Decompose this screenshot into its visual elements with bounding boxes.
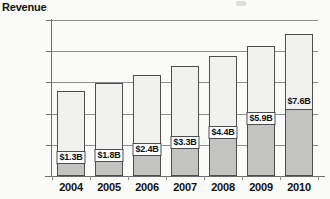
bar-group-2008[interactable]: $4.4B [209, 20, 237, 176]
x-tick-mark-2010 [280, 176, 281, 180]
revenue-bar-chart: Revenue $10B86420 $1.3B$1.8B$2.4B$3.3B$4… [0, 0, 330, 199]
bar-group-2004[interactable]: $1.3B [57, 20, 85, 176]
x-tick-label-2008: 2008 [211, 181, 235, 193]
x-tick-mark-2007 [166, 176, 167, 180]
x-tick-mark-2009 [242, 176, 243, 180]
bar-group-2006[interactable]: $2.4B [133, 20, 161, 176]
bar-lower-segment-2006[interactable] [134, 155, 160, 175]
x-tick-mark-2005 [90, 176, 91, 180]
x-tick-mark-2004 [52, 176, 53, 180]
bar-lower-segment-2008[interactable] [210, 138, 236, 175]
value-label-2005: $1.8B [94, 149, 123, 162]
bar-lower-segment-2004[interactable] [58, 163, 84, 175]
bar-lower-segment-2005[interactable] [96, 161, 122, 175]
x-tick-label-2005: 2005 [97, 181, 121, 193]
x-tick-label-2009: 2009 [249, 181, 273, 193]
value-label-2006: $2.4B [132, 143, 161, 156]
x-tick-mark-end [318, 176, 319, 180]
plot-area: $1.3B$1.8B$2.4B$3.3B$4.4B$5.9B$7.6B [52, 20, 318, 176]
bar-group-2009[interactable]: $5.9B [247, 20, 275, 176]
bar-group-2007[interactable]: $3.3B [171, 20, 199, 176]
bar-group-2005[interactable]: $1.8B [95, 20, 123, 176]
bar-total-2006[interactable] [133, 75, 161, 176]
bar-total-2007[interactable] [171, 66, 199, 176]
bar-total-2005[interactable] [95, 83, 123, 176]
bar-lower-segment-2009[interactable] [248, 124, 274, 175]
value-label-2009: $5.9B [246, 112, 275, 125]
value-label-2007: $3.3B [170, 136, 199, 149]
x-tick-label-2007: 2007 [173, 181, 197, 193]
bar-group-2010[interactable]: $7.6B [285, 20, 313, 176]
x-axis-line [45, 176, 325, 177]
value-label-2008: $4.4B [208, 126, 237, 139]
x-tick-label-2010: 2010 [287, 181, 311, 193]
bar-lower-segment-2010[interactable] [286, 109, 312, 175]
x-tick-mark-2006 [128, 176, 129, 180]
bar-total-2009[interactable] [247, 46, 275, 176]
bar-total-2008[interactable] [209, 56, 237, 176]
x-tick-label-2006: 2006 [135, 181, 159, 193]
x-tick-label-2004: 2004 [59, 181, 83, 193]
x-tick-mark-2008 [204, 176, 205, 180]
value-label-2004: $1.3B [56, 151, 85, 164]
bar-lower-segment-2007[interactable] [172, 148, 198, 175]
page-artifact [236, 1, 246, 6]
value-label-2010: $7.6B [287, 97, 310, 106]
y-axis-title: Revenue [2, 1, 46, 13]
